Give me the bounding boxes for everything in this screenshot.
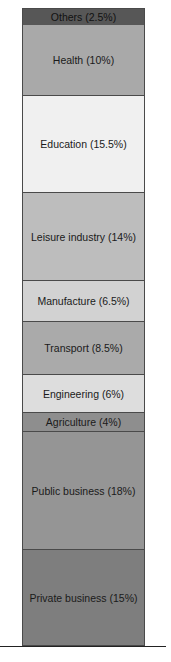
segment-private-business: Private business (15%): [22, 550, 145, 646]
segment-others: Others (2.5%): [22, 8, 145, 26]
segment-engineering: Engineering (6%): [22, 375, 145, 413]
segment-education: Education (15.5%): [22, 96, 145, 193]
x-axis-baseline: [0, 646, 166, 647]
segment-public-business: Public business (18%): [22, 432, 145, 550]
segment-agriculture: Agriculture (4%): [22, 413, 145, 432]
segment-health: Health (10%): [22, 25, 145, 96]
segment-manufacture: Manufacture (6.5%): [22, 281, 145, 322]
segment-transport: Transport (8.5%): [22, 322, 145, 375]
segment-leisure-industry: Leisure industry (14%): [22, 193, 145, 281]
